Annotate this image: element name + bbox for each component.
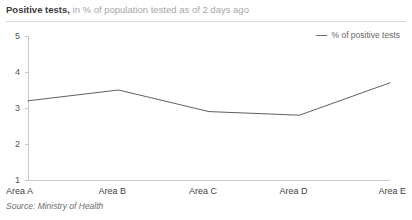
y-tick-label: 5	[6, 31, 20, 41]
chart-card: Positive tests, in % of population teste…	[0, 0, 412, 220]
y-tick-label: 4	[6, 67, 20, 77]
series-group	[28, 83, 390, 115]
x-tick-label: Area A	[6, 186, 33, 197]
y-tick-label: 3	[6, 103, 20, 113]
y-tick-label: 2	[6, 139, 20, 149]
source-note: Source: Ministry of Health	[6, 201, 103, 211]
axis-group	[25, 36, 390, 181]
series-line-1	[28, 83, 390, 115]
x-tick-label: Area B	[99, 186, 127, 197]
x-tick-label: Area D	[280, 186, 308, 197]
x-tick-label: Area C	[189, 186, 217, 197]
plot-area: 12345 Area AArea BArea CArea DArea E	[0, 0, 412, 220]
y-tick-label: 1	[6, 175, 20, 185]
x-tick-label: Area E	[378, 186, 406, 197]
